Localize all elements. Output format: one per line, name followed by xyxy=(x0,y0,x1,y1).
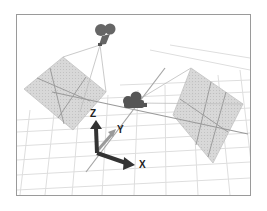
z-axis-label: Z xyxy=(90,108,96,119)
x-axis-label: X xyxy=(139,159,146,170)
y-axis-arrow xyxy=(98,129,116,150)
scene-diagram: Z Y X xyxy=(0,0,267,211)
x-axis-arrow xyxy=(97,153,135,170)
camera-center-icon xyxy=(123,92,147,109)
camera-top-icon xyxy=(95,24,116,47)
y-axis-label: Y xyxy=(117,124,124,135)
world-axis-line xyxy=(86,68,165,172)
